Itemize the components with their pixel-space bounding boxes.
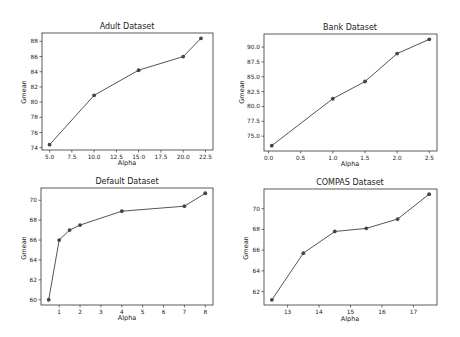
figure: Adult Dataset Alpha Gmean 5.07.510.012.5… (0, 0, 460, 337)
y-axis-label: Gmean (238, 80, 246, 103)
x-tick-label: 14 (315, 309, 323, 315)
x-tick-label: 0.5 (296, 155, 306, 161)
x-tick-label: 2 (78, 309, 82, 315)
x-tick-label: 15.0 (132, 154, 145, 160)
x-tick-label: 4 (120, 309, 124, 315)
data-point (395, 52, 399, 56)
x-tick-label: 10.0 (88, 154, 101, 160)
x-axis-label: Alpha (341, 315, 359, 323)
x-tick-label: 7 (183, 309, 187, 315)
data-point (203, 191, 207, 195)
chart-title: Adult Dataset (100, 22, 155, 31)
subplot-default: Default Dataset Alpha Gmean 123456786062… (20, 177, 213, 322)
x-tick-label: 1 (57, 309, 61, 315)
figure-canvas: Adult Dataset Alpha Gmean 5.07.510.012.5… (0, 0, 460, 337)
data-line (272, 194, 429, 300)
data-point (183, 204, 187, 208)
data-point (199, 36, 203, 40)
x-tick-label: 1.0 (328, 155, 338, 161)
y-tick-label: 64 (30, 257, 38, 263)
x-tick-label: 2.5 (425, 155, 435, 161)
plot-frame (264, 34, 437, 151)
data-point (181, 55, 185, 59)
y-tick-label: 70 (30, 197, 38, 203)
y-tick-label: 74 (31, 145, 39, 151)
x-tick-label: 13 (284, 309, 292, 315)
subplot-compas: COMPAS Dataset Alpha Gmean 1314151617626… (242, 178, 437, 323)
y-tick-label: 87.5 (247, 59, 260, 65)
data-point (137, 68, 141, 72)
data-point (301, 251, 305, 255)
data-point (331, 97, 335, 101)
y-tick-label: 86 (31, 54, 39, 60)
y-tick-label: 78 (31, 114, 39, 120)
y-tick-label: 75.0 (247, 133, 260, 139)
x-tick-label: 20.0 (177, 154, 190, 160)
x-tick-label: 6 (162, 309, 166, 315)
x-axis-label: Alpha (118, 314, 136, 322)
y-tick-label: 68 (253, 226, 261, 232)
y-tick-label: 62 (30, 277, 38, 283)
x-tick-label: 2.0 (393, 155, 403, 161)
x-tick-label: 7.5 (67, 154, 77, 160)
plot-frame (264, 189, 437, 305)
data-point (427, 37, 431, 41)
data-line (272, 39, 430, 145)
y-tick-label: 84 (31, 69, 39, 75)
y-tick-label: 66 (30, 237, 38, 243)
data-point (57, 238, 61, 242)
y-tick-label: 85.0 (247, 74, 260, 80)
x-tick-label: 1.5 (360, 155, 370, 161)
data-point (47, 298, 51, 302)
chart-title: Bank Dataset (323, 23, 377, 32)
data-point (270, 144, 274, 148)
x-axis-label: Alpha (341, 160, 359, 168)
x-tick-label: 5 (141, 309, 145, 315)
y-tick-label: 80 (31, 99, 39, 105)
y-tick-label: 66 (253, 247, 261, 253)
plot-frame (41, 188, 213, 305)
data-point (364, 226, 368, 230)
y-tick-label: 80.0 (247, 103, 260, 109)
data-point (396, 217, 400, 221)
data-point (68, 228, 72, 232)
data-point (333, 230, 337, 234)
data-point (427, 192, 431, 196)
y-tick-label: 60 (30, 297, 38, 303)
x-tick-label: 3 (99, 309, 103, 315)
x-tick-label: 16 (378, 309, 386, 315)
x-tick-label: 0.0 (264, 155, 274, 161)
x-tick-label: 22.5 (199, 154, 212, 160)
y-axis-label: Gmean (20, 236, 28, 259)
data-point (363, 80, 367, 84)
subplot-bank: Bank Dataset Alpha Gmean 0.00.51.01.52.0… (238, 23, 437, 168)
y-tick-label: 77.5 (247, 118, 260, 124)
y-tick-label: 88 (31, 38, 39, 44)
chart-title: COMPAS Dataset (316, 178, 384, 187)
data-point (270, 298, 274, 302)
x-tick-label: 17.5 (154, 154, 167, 160)
x-tick-label: 8 (203, 309, 207, 315)
y-axis-label: Gmean (242, 236, 250, 259)
y-tick-label: 90.0 (247, 44, 260, 50)
chart-title: Default Dataset (95, 177, 158, 186)
data-point (48, 143, 52, 147)
y-tick-label: 68 (30, 217, 38, 223)
y-tick-label: 70 (253, 206, 261, 212)
x-tick-label: 12.5 (110, 154, 123, 160)
y-tick-label: 76 (31, 130, 39, 136)
x-tick-label: 17 (410, 309, 418, 315)
x-axis-label: Alpha (118, 159, 136, 167)
y-axis-label: Gmean (20, 80, 28, 103)
y-tick-label: 64 (253, 268, 261, 274)
x-tick-label: 5.0 (45, 154, 55, 160)
y-tick-label: 62 (253, 289, 261, 295)
x-tick-label: 15 (347, 309, 355, 315)
y-tick-label: 82.5 (247, 89, 260, 95)
data-point (92, 93, 96, 97)
data-line (49, 193, 206, 299)
subplot-adult: Adult Dataset Alpha Gmean 5.07.510.012.5… (20, 22, 213, 167)
data-line (50, 38, 201, 144)
data-point (120, 209, 124, 213)
y-tick-label: 82 (31, 84, 39, 90)
